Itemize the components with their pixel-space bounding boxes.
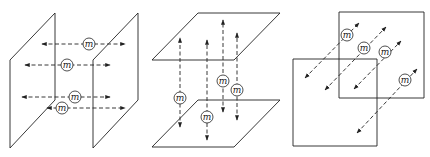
particle-m: m [69,91,81,103]
particle-m: m [341,29,353,41]
particle-trajectory: m [25,59,110,71]
svg-text:m: m [176,93,185,103]
particle-m: m [201,111,213,123]
svg-text:m: m [63,60,72,70]
svg-text:m: m [203,112,212,122]
particle-trajectory: m [47,102,125,114]
svg-text:m: m [233,85,242,95]
panel-parallel-squares-diagonal-motion: mmmm [293,12,424,146]
svg-text:m: m [401,75,410,85]
particle-planes-diagram: mmmmmmmmmmmm [0,0,430,157]
svg-text:m: m [343,30,352,40]
particle-trajectory: m [22,91,110,103]
svg-text:m: m [85,39,94,49]
plane [152,100,280,147]
panel-horizontal-planes-vertical-motion: mmmm [152,13,280,147]
particle-m: m [379,46,391,58]
particle-m: m [358,42,370,54]
particle-m: m [399,74,411,86]
svg-text:m: m [360,43,369,53]
particle-trajectory: m [231,33,243,120]
particle-m: m [61,59,73,71]
front-plane [293,59,377,146]
particle-m: m [83,38,95,50]
plane [93,13,138,148]
particle-trajectory: m [305,23,359,78]
svg-text:m: m [58,103,67,113]
panel-vertical-planes-horizontal-motion: mmmm [10,13,138,148]
particle-m: m [217,75,229,87]
plane [152,13,280,60]
svg-text:m: m [71,92,80,102]
particle-trajectory: m [217,20,229,112]
particle-trajectory: m [201,40,213,140]
plane [10,13,55,148]
particle-trajectory: m [357,69,417,133]
particle-m: m [56,102,68,114]
particle-m: m [231,84,243,96]
svg-text:m: m [381,47,390,57]
panels: mmmmmmmmmmmm [10,12,424,148]
particle-m: m [174,92,186,104]
svg-text:m: m [219,76,228,86]
